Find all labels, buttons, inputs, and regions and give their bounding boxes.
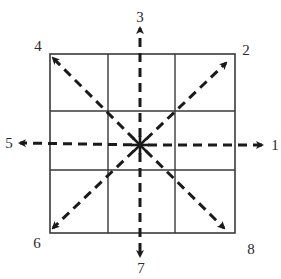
direction-label-2: 2 xyxy=(242,43,250,58)
direction-label-1: 1 xyxy=(271,138,279,153)
center-star-icon xyxy=(131,136,149,154)
direction-label-8: 8 xyxy=(247,242,255,257)
direction-grid-diagram: 12345678 xyxy=(0,0,281,279)
arrow-direction-2 xyxy=(146,63,226,139)
direction-label-7: 7 xyxy=(137,261,145,276)
arrow-direction-4 xyxy=(53,58,134,139)
direction-label-6: 6 xyxy=(33,236,41,251)
direction-label-4: 4 xyxy=(34,39,42,54)
arrow-direction-8 xyxy=(146,151,224,228)
direction-label-5: 5 xyxy=(5,136,13,151)
direction-label-3: 3 xyxy=(136,10,144,25)
arrow-direction-6 xyxy=(53,151,134,228)
arrow-direction-5 xyxy=(20,143,132,145)
